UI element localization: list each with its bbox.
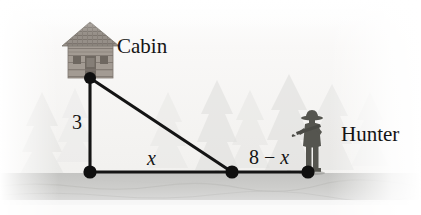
far-segment-variable: x	[280, 146, 289, 168]
edge-fade-bottom	[0, 200, 421, 215]
hunter-label: Hunter	[341, 124, 399, 145]
diagram-svg	[0, 0, 421, 215]
far-segment-label: 8 − x	[249, 147, 289, 167]
cabin-label: Cabin	[117, 36, 167, 57]
far-segment-prefix: 8 −	[249, 146, 280, 168]
vertical-leg-label: 3	[72, 112, 82, 132]
figure-canvas: Cabin Hunter 3 x 8 − x	[0, 0, 421, 215]
near-segment-label: x	[147, 148, 156, 168]
edge-fade-top	[0, 0, 421, 34]
